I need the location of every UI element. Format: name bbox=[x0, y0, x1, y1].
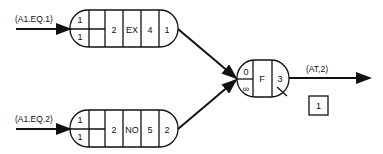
node-1-cell-top: 1 bbox=[77, 15, 82, 25]
input-label-2: (A1.EQ.2) bbox=[15, 114, 53, 124]
node-1-cell-5: 4 bbox=[147, 25, 152, 35]
node-2-cell-5: 5 bbox=[147, 125, 152, 135]
input-label-1: (A1.EQ.1) bbox=[15, 14, 53, 24]
join-cell-count: 3 bbox=[277, 74, 282, 84]
node-1: 1 1 2 EX 4 1 bbox=[70, 10, 178, 47]
node-2-cell-bottom: 1 bbox=[77, 132, 82, 142]
flow-diagram: (A1.EQ.1) 1 1 2 EX 4 1 (A1.EQ.2) 1 1 2 N… bbox=[0, 0, 383, 154]
node-1-cell-3: 2 bbox=[111, 25, 116, 35]
join-cell-bottom: ∞ bbox=[243, 84, 249, 94]
join-cell-top: 0 bbox=[243, 67, 248, 77]
node-2-cell-3: 2 bbox=[111, 125, 116, 135]
node-1-cell-bottom: 1 bbox=[77, 32, 82, 42]
node-1-cell-4: EX bbox=[126, 25, 138, 35]
node-2-cell-top: 1 bbox=[77, 115, 82, 125]
edge-node1-to-join bbox=[178, 29, 236, 78]
join-cell-op: F bbox=[259, 74, 265, 84]
node-2-cell-4: NO bbox=[125, 125, 139, 135]
node-2-cell-6: 2 bbox=[164, 125, 169, 135]
edge-node2-to-join bbox=[178, 80, 236, 129]
node-1-cell-6: 1 bbox=[164, 25, 169, 35]
node-2: 1 1 2 NO 5 2 bbox=[70, 110, 178, 147]
output-label: (AT,2) bbox=[306, 64, 328, 74]
join-node: 0 ∞ F 3 bbox=[237, 60, 289, 97]
counter-box-label: 1 bbox=[316, 101, 321, 111]
